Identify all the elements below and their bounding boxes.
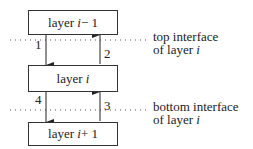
arrow-label-1: 1 [35,37,42,53]
top-interface-var: i [196,42,200,57]
top-interface-line2: of layer [153,42,196,57]
top-interface-label: top interface of layer i [153,30,218,56]
bottom-interface-var: i [196,112,200,127]
layer-box-bottom: layer i + 1 [28,122,118,146]
layer-box-top: layer i − 1 [28,10,118,35]
layer-bottom-suffix: + 1 [81,126,98,142]
arrow-label-2: 2 [104,46,111,62]
layer-top-prefix: layer [48,15,74,31]
bottom-interface-line2: of layer [153,112,196,127]
arrow-label-4: 4 [35,92,42,108]
layer-box-middle: layer i [28,65,118,92]
arrow-label-3: 3 [104,98,111,114]
bottom-interface-label: bottom interface of layer i [153,100,239,126]
layer-middle-prefix: layer [57,71,83,87]
layer-middle-var: i [86,71,90,87]
layer-top-suffix: − 1 [81,15,98,31]
layer-bottom-prefix: layer [48,126,74,142]
